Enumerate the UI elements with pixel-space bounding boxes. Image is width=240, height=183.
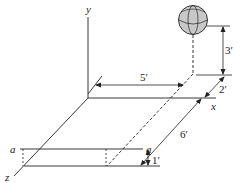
z-axis [14, 98, 88, 176]
sphere-icon [179, 6, 208, 35]
z-distance-label: 6′ [180, 128, 188, 140]
plane-label-left: a [10, 143, 16, 155]
x-axis-label: x [210, 100, 216, 112]
plane-a [20, 149, 160, 166]
z-distance-dimension [141, 99, 201, 165]
y-axis-label: y [85, 3, 91, 15]
diagram-canvas: y x z a a 1′ 5′ 3′ 2′ 6′ [0, 0, 240, 183]
plane-offset-label: 1′ [152, 154, 160, 166]
x-distance-label: 5′ [140, 71, 148, 83]
depth-label: 2′ [219, 83, 227, 95]
z-axis-label: z [4, 171, 10, 183]
height-label: 3′ [225, 44, 233, 56]
